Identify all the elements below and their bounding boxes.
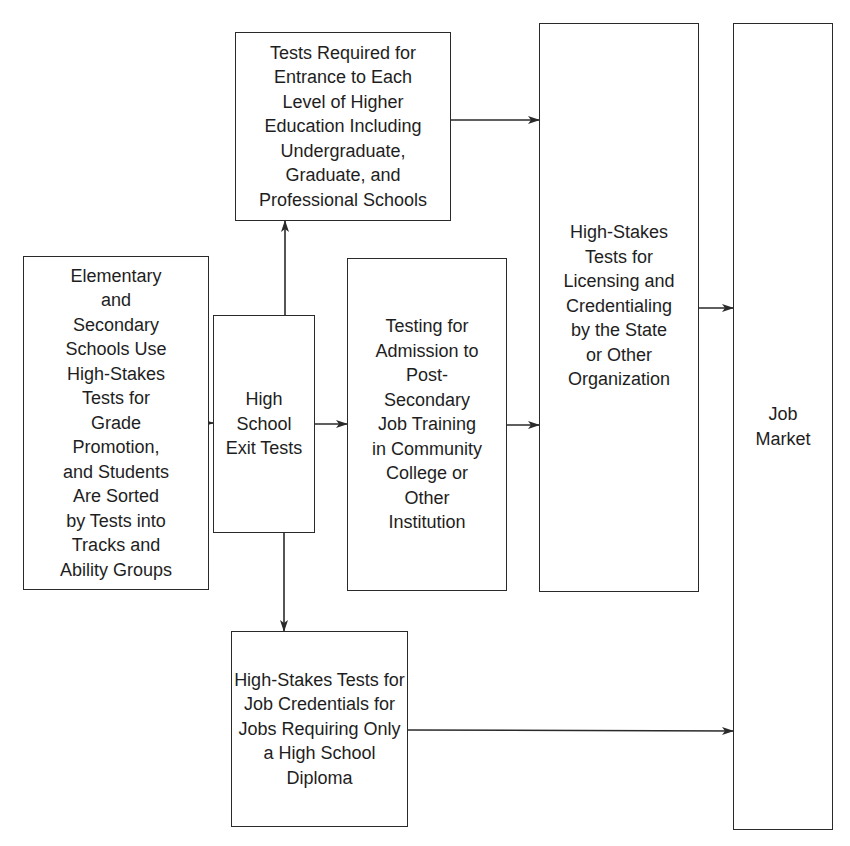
node-higher-education-entrance-label: Tests Required for Entrance to Each Leve… <box>259 41 427 213</box>
node-job-credentials-hs-label: High-Stakes Tests for Job Credentials fo… <box>234 668 405 791</box>
node-job-credentials-hs: High-Stakes Tests for Job Credentials fo… <box>231 631 408 827</box>
node-post-secondary-training: Testing for Admission to Post- Secondary… <box>347 258 507 591</box>
node-job-market: Job Market <box>733 23 833 830</box>
node-high-school-exit-label: High School Exit Tests <box>226 387 303 461</box>
node-higher-education-entrance: Tests Required for Entrance to Each Leve… <box>235 32 451 221</box>
node-licensing-credentialing-label: High-Stakes Tests for Licensing and Cred… <box>563 220 674 392</box>
node-high-school-exit: High School Exit Tests <box>213 315 315 533</box>
node-elementary-secondary-label: Elementary and Secondary Schools Use Hig… <box>60 264 172 583</box>
node-elementary-secondary: Elementary and Secondary Schools Use Hig… <box>23 256 209 590</box>
node-job-market-label: Job Market <box>755 402 810 451</box>
node-licensing-credentialing: High-Stakes Tests for Licensing and Cred… <box>539 23 699 592</box>
arrow-job-credentials-to-job-market <box>407 730 733 731</box>
node-post-secondary-training-label: Testing for Admission to Post- Secondary… <box>372 314 482 535</box>
